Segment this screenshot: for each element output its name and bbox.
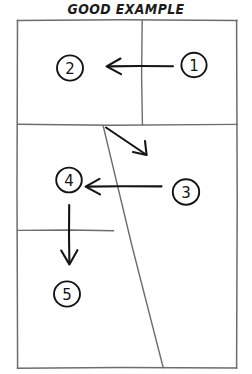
panel-marker-2: 2 <box>57 55 83 80</box>
frame-bottom-edge <box>18 367 237 368</box>
diagram-canvas: GOOD EXAMPLE <box>0 0 252 374</box>
panel-markers: 1 2 3 4 5 <box>54 53 207 307</box>
panel-marker-4-label: 4 <box>64 172 74 190</box>
panel-marker-5-label: 5 <box>62 286 72 304</box>
frame-top-edge <box>18 20 238 21</box>
panel-marker-2-label: 2 <box>65 60 75 78</box>
panel-marker-1-label: 1 <box>189 57 199 75</box>
divider-second-horizontal <box>18 230 114 231</box>
panel-marker-4: 4 <box>56 168 82 193</box>
panel-marker-3-label: 3 <box>181 184 191 202</box>
arrow-three-to-four <box>86 179 162 195</box>
arrow-four-to-five <box>61 205 77 264</box>
panel-marker-1: 1 <box>181 53 206 77</box>
panel-marker-3: 3 <box>173 179 199 205</box>
flow-arrows <box>61 59 173 265</box>
frame-left-edge <box>17 21 18 369</box>
panel-marker-5: 5 <box>54 281 80 306</box>
arrow-two-to-three <box>106 128 147 156</box>
divider-top-row-vertical <box>142 21 143 125</box>
frame-right-edge <box>237 21 238 368</box>
arrow-one-to-two <box>107 59 173 75</box>
divider-first-horizontal <box>18 124 237 125</box>
divider-slanted-diagonal <box>103 126 163 368</box>
panel-layout-illustration: 1 2 3 4 5 <box>0 0 252 374</box>
